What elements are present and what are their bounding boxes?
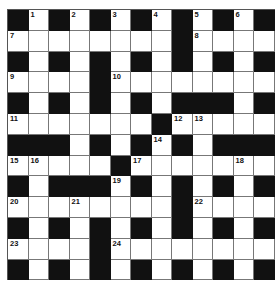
answer-cell[interactable]	[193, 156, 214, 177]
answer-cell[interactable]	[152, 239, 173, 260]
answer-cell[interactable]	[29, 176, 50, 197]
answer-cell[interactable]	[131, 31, 152, 52]
answer-cell[interactable]: 9	[8, 72, 29, 93]
answer-cell[interactable]	[29, 260, 50, 281]
answer-cell[interactable]	[49, 72, 70, 93]
answer-cell[interactable]	[254, 197, 275, 218]
answer-cell[interactable]: 19	[111, 176, 132, 197]
answer-cell[interactable]: 15	[8, 156, 29, 177]
answer-cell[interactable]	[234, 72, 255, 93]
answer-cell[interactable]	[152, 156, 173, 177]
answer-cell[interactable]	[172, 72, 193, 93]
answer-cell[interactable]	[111, 197, 132, 218]
answer-cell[interactable]	[254, 72, 275, 93]
answer-cell[interactable]	[70, 72, 91, 93]
answer-cell[interactable]	[213, 31, 234, 52]
answer-cell[interactable]: 3	[111, 10, 132, 31]
answer-cell[interactable]: 20	[8, 197, 29, 218]
answer-cell[interactable]	[70, 260, 91, 281]
answer-cell[interactable]: 24	[111, 239, 132, 260]
answer-cell[interactable]	[111, 260, 132, 281]
answer-cell[interactable]: 12	[172, 114, 193, 135]
answer-cell[interactable]	[172, 156, 193, 177]
answer-cell[interactable]	[193, 135, 214, 156]
answer-cell[interactable]	[152, 72, 173, 93]
answer-cell[interactable]	[193, 218, 214, 239]
answer-cell[interactable]	[172, 239, 193, 260]
answer-cell[interactable]	[152, 31, 173, 52]
answer-cell[interactable]: 10	[111, 72, 132, 93]
answer-cell[interactable]	[49, 239, 70, 260]
answer-cell[interactable]: 21	[70, 197, 91, 218]
answer-cell[interactable]	[90, 31, 111, 52]
answer-cell[interactable]	[234, 197, 255, 218]
answer-cell[interactable]	[193, 239, 214, 260]
answer-cell[interactable]	[254, 31, 275, 52]
answer-cell[interactable]	[49, 156, 70, 177]
answer-cell[interactable]	[131, 114, 152, 135]
answer-cell[interactable]	[70, 135, 91, 156]
answer-cell[interactable]	[70, 114, 91, 135]
answer-cell[interactable]	[193, 176, 214, 197]
answer-cell[interactable]	[152, 93, 173, 114]
answer-cell[interactable]	[29, 239, 50, 260]
answer-cell[interactable]	[234, 260, 255, 281]
answer-cell[interactable]: 17	[131, 156, 152, 177]
answer-cell[interactable]	[213, 156, 234, 177]
answer-cell[interactable]	[131, 239, 152, 260]
answer-cell[interactable]	[234, 52, 255, 73]
answer-cell[interactable]	[29, 31, 50, 52]
answer-cell[interactable]	[193, 72, 214, 93]
answer-cell[interactable]	[29, 197, 50, 218]
answer-cell[interactable]	[49, 114, 70, 135]
answer-cell[interactable]	[213, 114, 234, 135]
answer-cell[interactable]	[254, 239, 275, 260]
answer-cell[interactable]: 23	[8, 239, 29, 260]
answer-cell[interactable]	[29, 72, 50, 93]
answer-cell[interactable]	[29, 114, 50, 135]
answer-cell[interactable]	[254, 114, 275, 135]
answer-cell[interactable]: 6	[234, 10, 255, 31]
answer-cell[interactable]	[152, 218, 173, 239]
answer-cell[interactable]	[29, 218, 50, 239]
answer-cell[interactable]	[90, 197, 111, 218]
answer-cell[interactable]: 16	[29, 156, 50, 177]
answer-cell[interactable]	[234, 93, 255, 114]
answer-cell[interactable]	[90, 114, 111, 135]
answer-cell[interactable]	[49, 197, 70, 218]
answer-cell[interactable]	[111, 93, 132, 114]
answer-cell[interactable]	[234, 218, 255, 239]
answer-cell[interactable]	[70, 31, 91, 52]
answer-cell[interactable]: 8	[193, 31, 214, 52]
answer-cell[interactable]	[70, 52, 91, 73]
answer-cell[interactable]: 14	[152, 135, 173, 156]
answer-cell[interactable]	[234, 114, 255, 135]
answer-cell[interactable]	[131, 72, 152, 93]
answer-cell[interactable]	[70, 156, 91, 177]
answer-cell[interactable]	[152, 176, 173, 197]
answer-cell[interactable]	[234, 239, 255, 260]
answer-cell[interactable]	[111, 31, 132, 52]
answer-cell[interactable]	[152, 260, 173, 281]
answer-cell[interactable]	[111, 135, 132, 156]
answer-cell[interactable]: 4	[152, 10, 173, 31]
answer-cell[interactable]	[49, 31, 70, 52]
answer-cell[interactable]	[131, 197, 152, 218]
answer-cell[interactable]	[193, 52, 214, 73]
answer-cell[interactable]: 18	[234, 156, 255, 177]
answer-cell[interactable]: 2	[70, 10, 91, 31]
answer-cell[interactable]	[234, 31, 255, 52]
answer-cell[interactable]: 13	[193, 114, 214, 135]
answer-cell[interactable]	[111, 218, 132, 239]
answer-cell[interactable]	[29, 52, 50, 73]
answer-cell[interactable]: 1	[29, 10, 50, 31]
answer-cell[interactable]	[152, 52, 173, 73]
answer-cell[interactable]	[70, 218, 91, 239]
answer-cell[interactable]	[70, 239, 91, 260]
answer-cell[interactable]: 22	[193, 197, 214, 218]
answer-cell[interactable]	[213, 197, 234, 218]
answer-cell[interactable]: 7	[8, 31, 29, 52]
answer-cell[interactable]	[193, 260, 214, 281]
answer-cell[interactable]	[254, 156, 275, 177]
answer-cell[interactable]	[152, 197, 173, 218]
